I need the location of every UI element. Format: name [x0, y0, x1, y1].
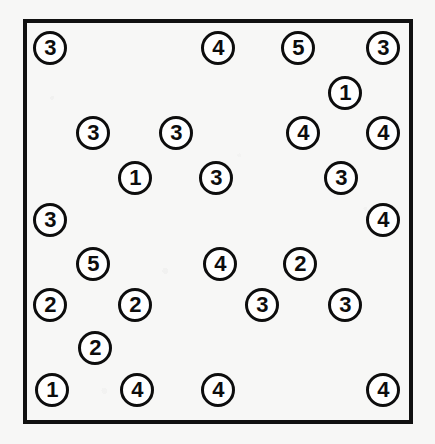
circle-token[interactable]: 3 — [328, 288, 362, 322]
circle-token-label: 4 — [377, 209, 389, 231]
circle-token-label: 1 — [129, 167, 141, 189]
circle-token-label: 4 — [377, 122, 389, 144]
circle-token[interactable]: 3 — [33, 31, 67, 65]
circle-token[interactable]: 1 — [118, 161, 152, 195]
circle-token[interactable]: 4 — [201, 373, 235, 407]
circle-token[interactable]: 1 — [35, 373, 69, 407]
circle-token-label: 4 — [212, 37, 224, 59]
circle-token-label: 3 — [210, 167, 222, 189]
circle-token-label: 2 — [129, 294, 141, 316]
circle-token[interactable]: 2 — [78, 331, 112, 365]
circle-token[interactable]: 3 — [159, 116, 193, 150]
circle-token[interactable]: 2 — [283, 247, 317, 281]
circle-token-label: 4 — [212, 379, 224, 401]
circle-token[interactable]: 5 — [281, 31, 315, 65]
circle-token-label: 5 — [87, 253, 99, 275]
circle-token[interactable]: 2 — [33, 288, 67, 322]
circle-token[interactable]: 4 — [201, 31, 235, 65]
scene-canvas: 34531334413334542223321444 — [0, 0, 435, 444]
circle-token[interactable]: 4 — [203, 247, 237, 281]
circle-token[interactable]: 1 — [328, 76, 362, 110]
circle-token-label: 4 — [131, 379, 143, 401]
circle-token[interactable]: 3 — [324, 161, 358, 195]
circle-token-label: 3 — [87, 122, 99, 144]
circle-token-label: 3 — [44, 209, 56, 231]
circle-token[interactable]: 4 — [366, 116, 400, 150]
circle-token-label: 4 — [377, 379, 389, 401]
circle-token-label: 1 — [339, 82, 351, 104]
circle-token-label: 3 — [339, 294, 351, 316]
circle-token[interactable]: 4 — [286, 116, 320, 150]
circle-token-label: 2 — [294, 253, 306, 275]
circle-token-label: 1 — [46, 379, 58, 401]
circle-token[interactable]: 4 — [366, 373, 400, 407]
circle-token[interactable]: 3 — [33, 203, 67, 237]
circle-token[interactable]: 3 — [366, 31, 400, 65]
circle-token[interactable]: 3 — [245, 288, 279, 322]
circle-token-label: 5 — [292, 37, 304, 59]
circle-token[interactable]: 3 — [76, 116, 110, 150]
circle-token[interactable]: 4 — [120, 373, 154, 407]
circle-token-label: 3 — [335, 167, 347, 189]
circle-token[interactable]: 2 — [118, 288, 152, 322]
circle-token[interactable]: 4 — [366, 203, 400, 237]
circle-token-label: 3 — [256, 294, 268, 316]
circle-token[interactable]: 3 — [199, 161, 233, 195]
circle-token[interactable]: 5 — [76, 247, 110, 281]
circle-token-label: 3 — [170, 122, 182, 144]
circle-token-label: 4 — [297, 122, 309, 144]
circle-token-label: 2 — [44, 294, 56, 316]
circle-token-label: 4 — [214, 253, 226, 275]
circle-token-label: 2 — [89, 337, 101, 359]
circle-token-label: 3 — [44, 37, 56, 59]
circle-token-label: 3 — [377, 37, 389, 59]
